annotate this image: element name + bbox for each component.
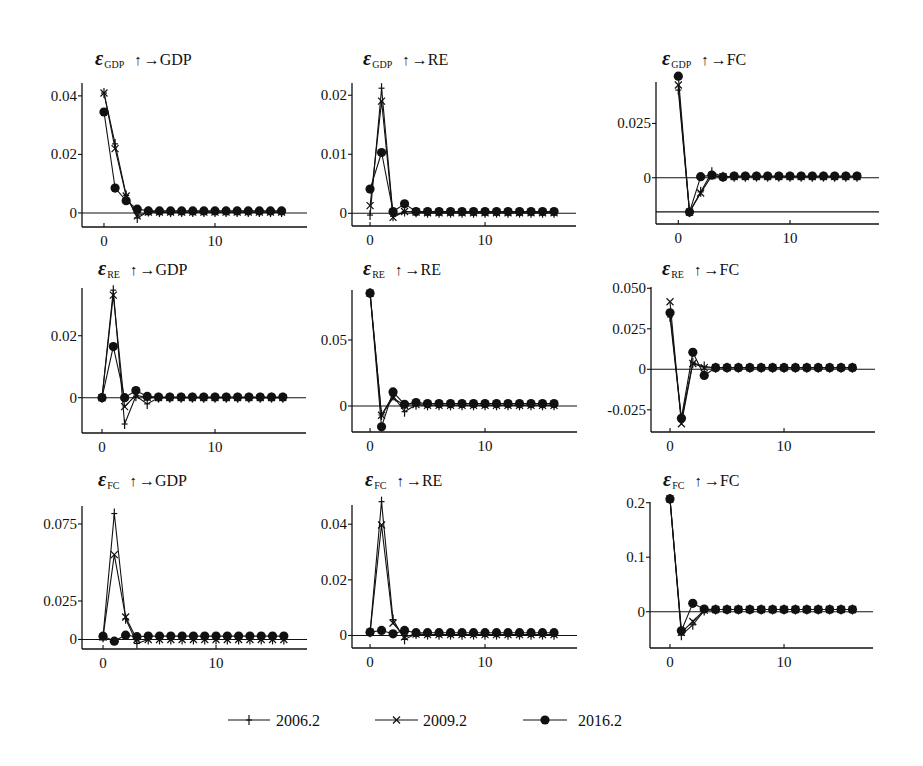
circle-marker bbox=[257, 631, 266, 640]
circle-marker bbox=[423, 399, 432, 408]
circle-marker bbox=[526, 399, 535, 408]
circle-marker bbox=[503, 399, 512, 408]
panel-title: εFC↑→RE bbox=[365, 469, 442, 496]
shock-variable: RE bbox=[671, 269, 684, 280]
x-tick-label: 0 bbox=[366, 438, 374, 454]
circle-marker bbox=[797, 171, 806, 180]
circle-marker bbox=[480, 628, 489, 637]
epsilon-symbol: ε bbox=[663, 468, 671, 490]
x-tick-label: 10 bbox=[478, 438, 493, 454]
circle-marker bbox=[189, 631, 198, 640]
circle-marker bbox=[266, 206, 275, 215]
circle-marker bbox=[779, 363, 788, 372]
plus-marker bbox=[122, 419, 128, 429]
circle-marker bbox=[836, 605, 845, 614]
circle-marker bbox=[825, 363, 834, 372]
circle-marker bbox=[199, 392, 208, 401]
circle-marker bbox=[411, 398, 420, 407]
circle-marker bbox=[665, 308, 674, 317]
circle-marker bbox=[222, 392, 231, 401]
circle-marker bbox=[377, 422, 386, 431]
shock-variable: GDP bbox=[372, 59, 392, 70]
circle-marker bbox=[526, 207, 535, 216]
circle-marker bbox=[177, 392, 186, 401]
circle-marker bbox=[741, 171, 750, 180]
circle-marker bbox=[791, 605, 800, 614]
response-variable: →FC bbox=[711, 51, 747, 68]
circle-marker bbox=[480, 399, 489, 408]
panel-title: εGDP↑→GDP bbox=[95, 48, 192, 75]
circle-marker bbox=[492, 399, 501, 408]
circle-marker bbox=[819, 171, 828, 180]
circle-marker bbox=[526, 628, 535, 637]
epsilon-symbol: ε bbox=[363, 257, 371, 279]
circle-marker bbox=[768, 605, 777, 614]
circle-marker bbox=[745, 605, 754, 614]
series-2009-2 bbox=[666, 495, 856, 636]
x-tick-label: 0 bbox=[99, 655, 107, 671]
circle-marker bbox=[707, 171, 716, 180]
circle-marker bbox=[411, 207, 420, 216]
x-tick-label: 0 bbox=[666, 438, 674, 454]
series-2006-2 bbox=[367, 497, 557, 645]
series-line bbox=[102, 347, 283, 398]
series-2016-2 bbox=[99, 107, 286, 215]
up-arrow-icon: ↑ bbox=[694, 262, 702, 278]
circle-marker bbox=[188, 206, 197, 215]
circle-marker bbox=[696, 172, 705, 181]
x-tick-label: 0 bbox=[366, 654, 374, 670]
y-tick-label: 0.050 bbox=[612, 280, 646, 296]
circle-marker bbox=[133, 205, 142, 214]
circle-marker bbox=[538, 207, 547, 216]
plus-marker bbox=[111, 509, 117, 519]
circle-marker bbox=[763, 171, 772, 180]
circle-marker bbox=[734, 363, 743, 372]
panel-fc-to-re: 00.020.04010 bbox=[321, 497, 577, 670]
up-arrow-icon: ↑ bbox=[396, 473, 404, 489]
y-tick-label: 0.01 bbox=[321, 146, 347, 162]
circle-marker bbox=[377, 148, 386, 157]
series-2016-2 bbox=[97, 342, 287, 402]
shock-variable: FC bbox=[374, 480, 386, 491]
circle-marker bbox=[685, 207, 694, 216]
circle-marker bbox=[515, 628, 524, 637]
y-tick-label: 0 bbox=[639, 361, 647, 377]
circle-marker bbox=[469, 207, 478, 216]
series-2009-2 bbox=[99, 292, 287, 411]
circle-marker bbox=[268, 631, 277, 640]
circle-marker bbox=[745, 363, 754, 372]
circle-marker bbox=[722, 363, 731, 372]
impulse-response-figure: 00.020.0401000.010.0201000.02501000.0201… bbox=[0, 0, 923, 766]
y-tick-label: 0.025 bbox=[617, 115, 651, 131]
y-tick-label: -0.025 bbox=[607, 402, 646, 418]
circle-marker bbox=[718, 173, 727, 182]
series-2009-2 bbox=[100, 551, 288, 643]
panel-re-to-gdp: 00.02010 bbox=[51, 285, 306, 455]
circle-marker bbox=[791, 363, 800, 372]
legend-item-2016-2: 2016.2 bbox=[523, 712, 622, 729]
shock-variable: RE bbox=[372, 269, 385, 280]
series-2009-2 bbox=[675, 82, 861, 216]
circle-marker bbox=[757, 605, 766, 614]
y-tick-label: 0.05 bbox=[321, 332, 347, 348]
shock-variable: FC bbox=[672, 480, 684, 491]
panel-gdp-to-re: 00.010.02010 bbox=[321, 83, 576, 248]
circle-marker bbox=[752, 171, 761, 180]
circle-marker bbox=[457, 628, 466, 637]
circle-marker bbox=[677, 414, 686, 423]
series-2006-2 bbox=[667, 494, 856, 640]
panel-title: εRE↑→FC bbox=[662, 258, 739, 285]
epsilon-symbol: ε bbox=[98, 468, 106, 490]
circle-marker bbox=[423, 628, 432, 637]
x-tick-label: 10 bbox=[209, 655, 224, 671]
response-variable: →FC bbox=[703, 261, 739, 278]
series-line bbox=[102, 290, 283, 424]
legend-label: 2006.2 bbox=[276, 712, 320, 729]
circle-marker bbox=[277, 206, 286, 215]
series-line bbox=[104, 112, 282, 211]
circle-marker bbox=[166, 206, 175, 215]
panel-title: εFC↑→GDP bbox=[98, 469, 187, 496]
circle-marker bbox=[234, 631, 243, 640]
circle-marker bbox=[388, 629, 397, 638]
x-tick-label: 0 bbox=[100, 233, 108, 249]
